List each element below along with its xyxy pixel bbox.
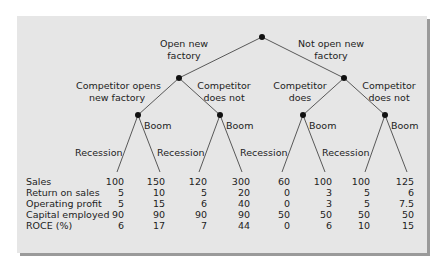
recession-label-4: Recession [322, 147, 369, 159]
node-econ-2 [217, 112, 223, 118]
recession-label-2: Recession [157, 147, 204, 159]
table-cell: 15 [135, 198, 165, 209]
root-node [259, 34, 265, 40]
table-cell: 90 [177, 209, 207, 220]
branch-label-open-new-factory: Open new factory [160, 38, 208, 62]
table-cell: 3 [302, 187, 332, 198]
table-cell: 6 [384, 187, 414, 198]
branch-label-not-open-new-factory: Not open new factory [298, 38, 364, 62]
table-cell: 15 [384, 220, 414, 231]
table-cell: 7 [177, 220, 207, 231]
table-cell: 5 [94, 187, 124, 198]
label-line: factory [160, 50, 208, 62]
row-label-return-on-sales: Return on sales [26, 187, 100, 198]
decision-tree-lines [0, 0, 445, 273]
table-cell: 90 [220, 209, 250, 220]
label-line: Not open new [298, 38, 364, 50]
table-cell: 40 [220, 198, 250, 209]
table-cell: 5 [94, 198, 124, 209]
boom-label-4: Boom [391, 120, 418, 132]
node-econ-4 [382, 112, 388, 118]
label-line: does not [361, 92, 417, 104]
recession-label-1: Recession [75, 147, 122, 159]
table-cell: 6 [177, 198, 207, 209]
table-cell: 50 [384, 209, 414, 220]
recession-label-3: Recession [240, 147, 287, 159]
table-cell: 60 [260, 176, 290, 187]
table-cell: 44 [220, 220, 250, 231]
row-label-roce: ROCE (%) [26, 220, 72, 231]
branch-label-competitor-does-not-2: Competitor does not [361, 80, 417, 104]
label-line: Competitor [196, 80, 252, 92]
table-cell: 17 [135, 220, 165, 231]
label-line: Competitor [272, 80, 328, 92]
table-cell: 5 [340, 187, 370, 198]
table-cell: 3 [302, 198, 332, 209]
table-cell: 20 [220, 187, 250, 198]
node-open [176, 75, 182, 81]
table-cell: 50 [302, 209, 332, 220]
table-cell: 7.5 [384, 198, 414, 209]
table-cell: 150 [135, 176, 165, 187]
branch-label-competitor-does-not-1: Competitor does not [196, 80, 252, 104]
node-econ-1 [135, 112, 141, 118]
table-cell: 0 [260, 198, 290, 209]
label-line: does not [196, 92, 252, 104]
table-cell: 90 [135, 209, 165, 220]
row-label-sales: Sales [26, 176, 51, 187]
label-line: does [272, 92, 328, 104]
label-line: Competitor [361, 80, 417, 92]
table-cell: 120 [177, 176, 207, 187]
table-cell: 50 [340, 209, 370, 220]
table-cell: 125 [384, 176, 414, 187]
boom-label-2: Boom [226, 120, 253, 132]
table-cell: 10 [135, 187, 165, 198]
table-cell: 5 [177, 187, 207, 198]
branch-label-competitor-does: Competitor does [272, 80, 328, 104]
table-cell: 6 [302, 220, 332, 231]
label-line: Competitor opens [76, 80, 158, 92]
boom-label-1: Boom [144, 120, 171, 132]
table-cell: 100 [302, 176, 332, 187]
node-econ-3 [300, 112, 306, 118]
table-cell: 6 [94, 220, 124, 231]
label-line: new factory [76, 92, 158, 104]
table-cell: 0 [260, 220, 290, 231]
table-cell: 300 [220, 176, 250, 187]
label-line: factory [298, 50, 364, 62]
table-cell: 0 [260, 187, 290, 198]
branch-label-competitor-opens: Competitor opens new factory [76, 80, 158, 104]
table-cell: 10 [340, 220, 370, 231]
table-cell: 90 [94, 209, 124, 220]
table-cell: 100 [340, 176, 370, 187]
table-cell: 5 [340, 198, 370, 209]
node-not-open [341, 75, 347, 81]
label-line: Open new [160, 38, 208, 50]
table-cell: 100 [94, 176, 124, 187]
row-label-operating-profit: Operating profit [26, 198, 102, 209]
boom-label-3: Boom [309, 120, 336, 132]
table-cell: 50 [260, 209, 290, 220]
